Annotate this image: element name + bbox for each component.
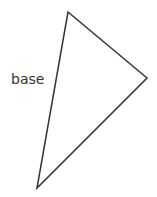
triangle-diagram: [0, 0, 157, 197]
base-label: base: [11, 71, 44, 87]
triangle-shape: [37, 12, 147, 188]
